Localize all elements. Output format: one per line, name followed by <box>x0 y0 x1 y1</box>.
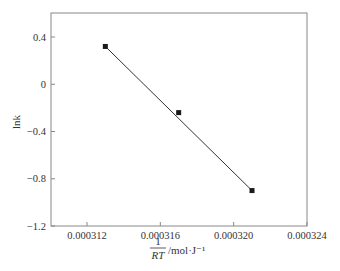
svg-text:1: 1 <box>155 235 161 247</box>
x-axis-ticks: 0.0003120.0003160.0003200.000324 <box>67 222 327 241</box>
y-tick-label: −0.8 <box>27 173 46 184</box>
y-tick-label: 0 <box>41 79 46 90</box>
svg-text:RT: RT <box>151 249 166 261</box>
y-tick-label: −1.2 <box>27 221 46 232</box>
chart: 0.40−0.4−0.8−1.2 0.0003120.0003160.00032… <box>0 0 340 271</box>
y-tick-label: −0.4 <box>27 126 47 137</box>
svg-text:/mol·J⁻¹: /mol·J⁻¹ <box>168 244 205 256</box>
data-point-square <box>103 44 108 49</box>
data-point-square <box>250 188 255 193</box>
data-point-square <box>176 110 181 115</box>
fit-line <box>105 46 252 190</box>
x-tick-label: 0.000320 <box>214 230 253 241</box>
x-tick-label: 0.000324 <box>287 230 327 241</box>
y-tick-label: 0.4 <box>33 32 47 43</box>
data-series <box>103 44 255 193</box>
x-tick-label: 0.000312 <box>67 230 106 241</box>
y-axis-title: lnk <box>10 114 22 129</box>
